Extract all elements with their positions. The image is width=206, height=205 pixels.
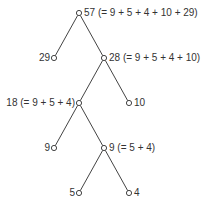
tree-node-n18 [76,100,81,105]
node-label-n18: 18 (= 9 + 5 + 4) [6,98,75,108]
tree-node-n4 [126,190,131,195]
edge-n18-n9a [55,105,77,145]
node-label-n5: 5 [69,188,75,198]
tree-node-n9b [101,145,106,150]
tree-node-n29 [51,55,56,60]
edge-n9b-n5 [80,150,102,190]
edge-n57-n29 [55,15,77,55]
tree-node-n28 [101,55,106,60]
edge-n28-n18 [80,60,102,100]
node-label-n29: 29 [39,53,50,63]
node-label-n57: 57 (= 9 + 5 + 4 + 10 + 29) [84,8,198,18]
tree-node-n10 [126,100,131,105]
node-label-n4: 4 [134,188,140,198]
tree-node-n5 [76,190,81,195]
edge-n57-n28 [80,15,102,55]
node-label-n9b: 9 (= 5 + 4) [109,143,155,153]
node-label-n28: 28 (= 9 + 5 + 4 + 10) [109,53,200,63]
node-label-n10: 10 [134,98,145,108]
node-label-n9a: 9 [44,143,50,153]
tree-node-n9a [51,145,56,150]
edge-n9b-n4 [105,150,127,190]
edge-n18-n9b [80,105,102,145]
tree-node-n57 [76,10,81,15]
edge-n28-n10 [105,60,127,100]
